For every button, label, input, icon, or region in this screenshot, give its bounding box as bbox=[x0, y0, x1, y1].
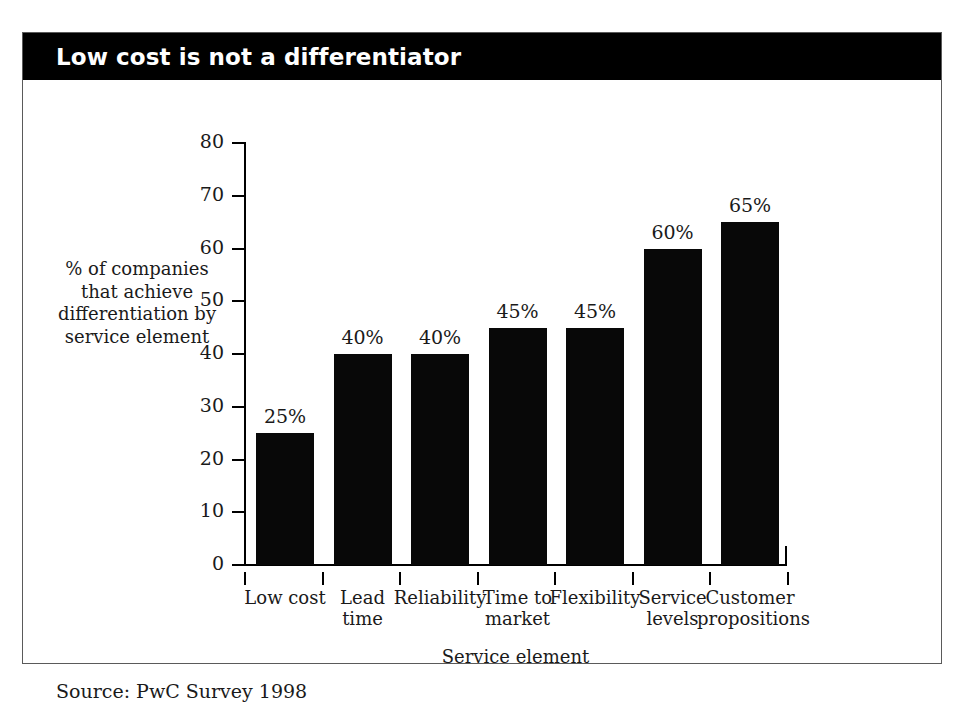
y-axis-line bbox=[244, 142, 246, 566]
bar-value-label: 60% bbox=[628, 221, 718, 243]
bar-value-label: 40% bbox=[318, 326, 408, 348]
y-axis-tick bbox=[232, 195, 244, 197]
x-axis-tick bbox=[399, 572, 401, 585]
y-axis-title: % of companiesthat achievedifferentiatio… bbox=[51, 258, 223, 349]
y-axis-tick-label: 20 bbox=[168, 447, 224, 469]
bar-value-label: 45% bbox=[473, 300, 563, 322]
bar bbox=[721, 222, 779, 565]
y-axis-tick bbox=[232, 459, 244, 461]
plot-region: 01020304050607080 25%40%40%45%45%60%65% … bbox=[23, 80, 941, 663]
x-axis-end-cap bbox=[785, 546, 787, 566]
source-note: Source: PwC Survey 1998 bbox=[56, 680, 307, 702]
y-axis-tick-label: 70 bbox=[168, 183, 224, 205]
y-axis-tick-label: 10 bbox=[168, 499, 224, 521]
bar-value-label: 40% bbox=[395, 326, 485, 348]
x-axis-tick bbox=[244, 572, 246, 585]
y-axis-tick-label: 60 bbox=[168, 236, 224, 258]
bar-value-label: 45% bbox=[550, 300, 640, 322]
figure-frame: Low cost is not a differentiator 0102030… bbox=[22, 32, 942, 664]
bar bbox=[566, 328, 624, 565]
bar bbox=[644, 249, 702, 566]
bar-value-label: 25% bbox=[240, 405, 330, 427]
y-axis-tick bbox=[232, 511, 244, 513]
x-axis-category-label-line: market bbox=[465, 609, 571, 630]
title-banner: Low cost is not a differentiator bbox=[23, 33, 941, 80]
y-axis-title-line: that achieve bbox=[51, 281, 223, 304]
y-axis-tick bbox=[232, 353, 244, 355]
y-axis-tick bbox=[232, 564, 244, 566]
x-axis-tick bbox=[787, 572, 789, 585]
y-axis-tick bbox=[232, 248, 244, 250]
y-axis-tick-label: 0 bbox=[168, 552, 224, 574]
y-axis-title-line: service element bbox=[51, 326, 223, 349]
x-axis-title: Service element bbox=[244, 646, 787, 667]
bar bbox=[334, 354, 392, 565]
y-axis-tick-label: 80 bbox=[168, 130, 224, 152]
chart-title: Low cost is not a differentiator bbox=[56, 44, 461, 70]
bar bbox=[411, 354, 469, 565]
x-axis-tick bbox=[709, 572, 711, 585]
y-axis-tick-label: 30 bbox=[168, 394, 224, 416]
y-axis-tick bbox=[232, 142, 244, 144]
x-axis-tick bbox=[554, 572, 556, 585]
bar-value-label: 65% bbox=[705, 194, 795, 216]
x-axis-category-label-line: propositions bbox=[697, 609, 803, 630]
y-axis-title-line: differentiation by bbox=[51, 303, 223, 326]
bar bbox=[256, 433, 314, 565]
bar bbox=[489, 328, 547, 565]
y-axis-title-line: % of companies bbox=[51, 258, 223, 281]
x-axis-category-label: Customerpropositions bbox=[697, 588, 803, 630]
x-axis-tick bbox=[477, 572, 479, 585]
x-axis-category-label-line: time bbox=[310, 609, 416, 630]
x-axis-category-label-line: Customer bbox=[697, 588, 803, 609]
x-axis-tick bbox=[632, 572, 634, 585]
y-axis-tick bbox=[232, 300, 244, 302]
x-axis-tick bbox=[322, 572, 324, 585]
